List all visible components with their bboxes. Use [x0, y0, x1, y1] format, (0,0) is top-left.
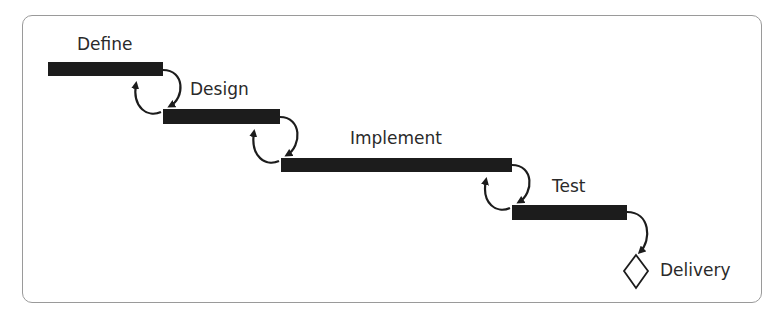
phase-label-test: Test	[552, 178, 585, 195]
milestone-diamond-icon	[624, 255, 648, 288]
phase-bar-implement	[281, 158, 512, 172]
phase-bar-design	[163, 109, 280, 124]
feedback-arrow-icon	[135, 84, 161, 114]
forward-arrow-icon	[627, 212, 647, 252]
forward-arrow-icon	[512, 165, 529, 202]
phase-label-design: Design	[190, 81, 249, 98]
feedback-arrow-icon	[253, 132, 279, 163]
phase-label-implement: Implement	[350, 130, 442, 147]
phase-bar-test	[512, 205, 627, 220]
forward-arrow-icon	[280, 117, 297, 155]
phase-bar-define	[48, 62, 163, 76]
phase-label-define: Define	[77, 36, 133, 53]
feedback-arrow-icon	[485, 180, 510, 210]
milestone-label-delivery: Delivery	[660, 262, 731, 279]
forward-arrow-icon	[163, 70, 180, 106]
